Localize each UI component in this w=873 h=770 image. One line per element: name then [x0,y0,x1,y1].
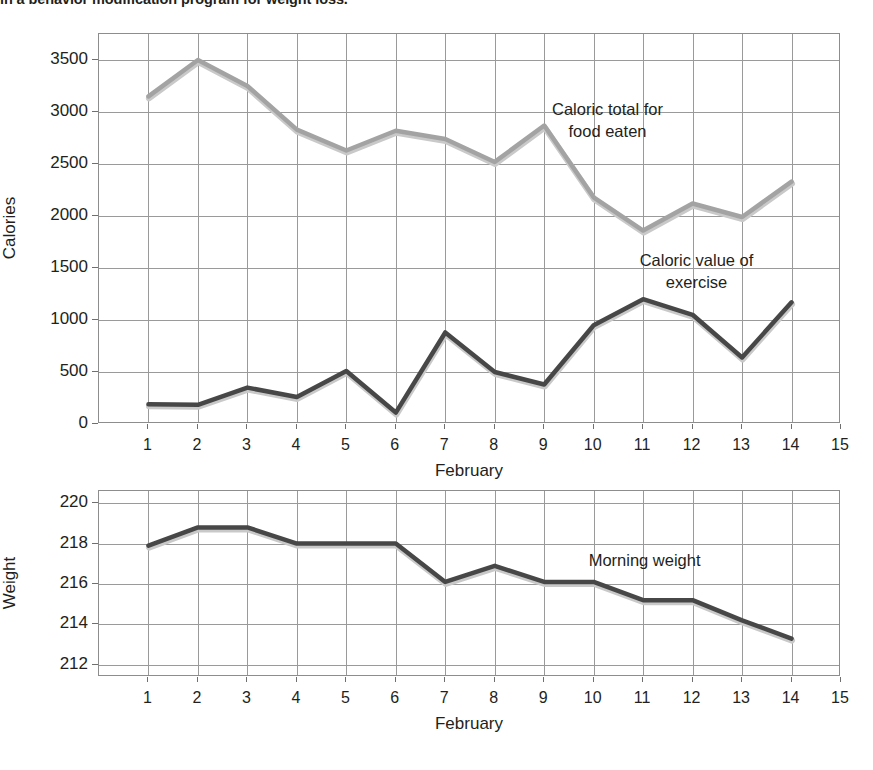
y-axis-tick [92,502,98,503]
y-axis-tick-label: 2000 [36,205,88,225]
series-annotation-label: Caloric value of exercise [640,250,754,294]
x-axis-tick [197,424,198,429]
gridline-vertical [396,491,397,675]
x-axis-tick-label: 12 [683,689,701,707]
gridline-vertical [247,491,248,675]
y-axis-tick [92,319,98,320]
x-axis-tick [246,424,247,429]
y-axis-tick [92,163,98,164]
y-axis-tick [92,623,98,624]
gridline-vertical [198,34,199,422]
gridline-vertical [148,491,149,675]
x-axis-tick [840,424,841,429]
x-axis-title: February [435,714,503,734]
y-axis-tick-label: 212 [36,654,88,674]
y-axis-tick [92,664,98,665]
gridline-vertical [742,491,743,675]
gridline-vertical [693,34,694,422]
gridline-horizontal [99,60,839,61]
y-axis-tick [92,267,98,268]
x-axis-title: February [435,461,503,481]
gridline-vertical [495,34,496,422]
x-axis-tick-label: 3 [242,436,251,454]
series-annotation-label: Caloric total for food eaten [552,100,663,144]
x-axis-tick-label: 3 [242,689,251,707]
y-axis-tick-label: 214 [36,613,88,633]
x-axis-tick [345,424,346,429]
y-axis-tick [92,111,98,112]
x-axis-tick [741,424,742,429]
x-axis-tick [840,677,841,682]
gridline-vertical [742,34,743,422]
gridline-horizontal [99,503,839,504]
x-axis-tick [444,677,445,682]
x-axis-tick [692,424,693,429]
gridline-horizontal [99,164,839,165]
gridline-vertical [544,34,545,422]
y-axis-tick-label: 1000 [36,309,88,329]
gridline-vertical [693,491,694,675]
gridline-vertical [792,491,793,675]
x-axis-tick [395,677,396,682]
x-axis-tick [593,424,594,429]
x-axis-tick-label: 10 [584,436,602,454]
x-axis-tick-label: 7 [440,436,449,454]
x-axis-tick [147,424,148,429]
y-axis-tick-label: 1500 [36,257,88,277]
x-axis-tick-label: 1 [143,689,152,707]
x-axis-tick [791,424,792,429]
calories-chart: 0500100015002000250030003500123456789101… [0,20,873,470]
figure-caption: in a behavior modification program for w… [0,0,873,14]
x-axis-tick-label: 10 [584,689,602,707]
gridline-vertical [594,34,595,422]
x-axis-tick-label: 4 [291,436,300,454]
x-axis-tick [791,677,792,682]
gridline-horizontal [99,584,839,585]
x-axis-tick [543,677,544,682]
gridline-vertical [297,491,298,675]
gridline-vertical [346,491,347,675]
gridline-vertical [792,34,793,422]
gridline-horizontal [99,320,839,321]
gridline-vertical [148,34,149,422]
gridline-horizontal [99,665,839,666]
x-axis-tick-label: 6 [390,689,399,707]
gridline-vertical [643,491,644,675]
x-axis-tick [246,677,247,682]
y-axis-tick-label: 2500 [36,153,88,173]
gridline-vertical [396,34,397,422]
x-axis-tick-label: 11 [634,689,651,707]
series-annotation-label: Morning weight [589,550,701,572]
x-axis-tick-label: 14 [782,689,800,707]
weight-chart: 212214216218220123456789101112131415Febr… [0,480,873,770]
y-axis-title: Calories [0,197,20,259]
gridline-horizontal [99,216,839,217]
x-axis-tick-label: 14 [782,436,800,454]
gridline-vertical [346,34,347,422]
gridline-vertical [198,491,199,675]
gridline-vertical [445,491,446,675]
x-axis-tick [494,424,495,429]
x-axis-tick [543,424,544,429]
x-axis-tick [197,677,198,682]
y-axis-tick-label: 218 [36,533,88,553]
x-axis-tick [642,677,643,682]
x-axis-tick-label: 7 [440,689,449,707]
x-axis-tick [147,677,148,682]
y-axis-tick-label: 216 [36,573,88,593]
weight-chart-plot-area [98,490,840,676]
series-line-shadow [149,301,792,414]
gridline-vertical [445,34,446,422]
calories-chart-plot-area [98,33,840,423]
x-axis-tick [642,424,643,429]
x-axis-tick [444,424,445,429]
calories-chart-series-layer [99,34,841,424]
gridline-vertical [544,491,545,675]
figure-caption-text: in a behavior modification program for w… [0,0,348,7]
y-axis-tick [92,215,98,216]
x-axis-tick-label: 8 [489,436,498,454]
x-axis-tick-label: 13 [732,436,750,454]
y-axis-tick-label: 3000 [36,101,88,121]
gridline-vertical [247,34,248,422]
x-axis-tick [593,677,594,682]
